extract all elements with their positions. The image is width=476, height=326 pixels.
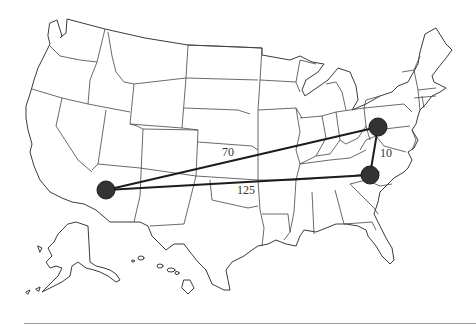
node-arizona bbox=[97, 181, 115, 199]
bottom-divider bbox=[24, 323, 476, 324]
edge-weight-label-pa-nc: 10 bbox=[380, 147, 392, 159]
graph-edges bbox=[106, 127, 378, 190]
node-north-carolina bbox=[361, 166, 379, 184]
edge-weight-label-az-nc: 125 bbox=[237, 184, 255, 196]
us-map bbox=[0, 0, 476, 326]
node-pennsylvania-maryland bbox=[369, 118, 387, 136]
edge-weight-label-az-pa: 70 bbox=[222, 146, 234, 158]
edge-arizona-pennsylvania bbox=[106, 127, 378, 190]
alaska-outline bbox=[42, 222, 120, 292]
us-map-graph-figure: 70 125 10 bbox=[0, 0, 476, 326]
hawaii-outline bbox=[132, 256, 195, 294]
